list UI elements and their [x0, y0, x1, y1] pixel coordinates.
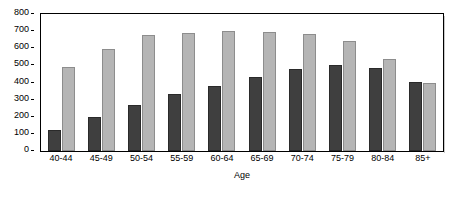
y-tick-mark — [31, 13, 34, 14]
y-tick-label: 500 — [14, 59, 29, 68]
x-tick-label: 65-69 — [242, 153, 282, 164]
bar-series-1-50-54[interactable] — [128, 105, 141, 151]
y-tick-label: 0 — [24, 145, 29, 154]
bar-group — [409, 14, 436, 151]
bar-group — [168, 14, 195, 151]
bar-group — [128, 14, 155, 151]
y-tick-label: 100 — [14, 128, 29, 137]
bar-series-1-45-49[interactable] — [88, 117, 101, 151]
y-tick-mark — [31, 64, 34, 65]
bar-series-2-50-54[interactable] — [142, 35, 155, 151]
x-tick-label: 50-54 — [121, 153, 161, 164]
y-tick-mark — [31, 133, 34, 134]
bar-group — [289, 14, 316, 151]
y-tick-label: 800 — [14, 8, 29, 17]
bar-group — [88, 14, 115, 151]
bar-group — [48, 14, 75, 151]
plot-area — [41, 14, 443, 151]
bar-series-1-70-74[interactable] — [289, 69, 302, 151]
x-axis: 40-4445-4950-5455-5960-6465-6970-7475-79… — [41, 153, 443, 167]
bar-series-2-55-59[interactable] — [182, 33, 195, 151]
bar-group — [369, 14, 396, 151]
bar-series-1-65-69[interactable] — [249, 77, 262, 151]
bar-group — [329, 14, 356, 151]
bar-series-2-60-64[interactable] — [222, 31, 235, 151]
bar-series-2-65-69[interactable] — [263, 32, 276, 151]
bar-group — [249, 14, 276, 151]
x-tick-label: 55-59 — [162, 153, 202, 164]
bar-series-2-75-79[interactable] — [343, 41, 356, 151]
bar-chart: 0100200300400500600700800 40-4445-4950-5… — [0, 0, 449, 206]
x-tick-label: 45-49 — [81, 153, 121, 164]
y-tick-mark — [31, 99, 34, 100]
y-tick-mark — [31, 30, 34, 31]
bar-series-2-80-84[interactable] — [383, 59, 396, 151]
y-tick-label: 400 — [14, 77, 29, 86]
bar-series-1-75-79[interactable] — [329, 65, 342, 151]
x-tick-label: 75-79 — [322, 153, 362, 164]
y-tick-label: 700 — [14, 25, 29, 34]
bar-series-1-40-44[interactable] — [48, 130, 61, 151]
bar-series-1-80-84[interactable] — [369, 68, 382, 151]
bar-series-2-40-44[interactable] — [62, 67, 75, 151]
y-axis: 0100200300400500600700800 — [0, 0, 40, 160]
y-tick-label: 200 — [14, 111, 29, 120]
bar-series-2-85+[interactable] — [423, 83, 436, 151]
x-tick-label: 60-64 — [202, 153, 242, 164]
bar-series-1-55-59[interactable] — [168, 94, 181, 151]
bar-group — [208, 14, 235, 151]
y-tick-mark — [31, 82, 34, 83]
bar-series-1-85+[interactable] — [409, 82, 422, 151]
y-tick-label: 300 — [14, 94, 29, 103]
bar-series-2-70-74[interactable] — [303, 34, 316, 151]
x-tick-label: 85+ — [403, 153, 443, 164]
y-tick-label: 600 — [14, 42, 29, 51]
bar-series-1-60-64[interactable] — [208, 86, 221, 151]
x-tick-label: 80-84 — [363, 153, 403, 164]
y-tick-mark — [31, 150, 34, 151]
bar-series-2-45-49[interactable] — [102, 49, 115, 151]
x-tick-label: 40-44 — [41, 153, 81, 164]
y-tick-mark — [31, 47, 34, 48]
x-tick-label: 70-74 — [282, 153, 322, 164]
x-axis-title: Age — [41, 170, 443, 181]
y-tick-mark — [31, 116, 34, 117]
